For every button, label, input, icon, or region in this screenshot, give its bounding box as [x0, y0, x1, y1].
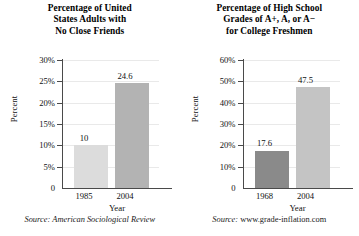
figure-two-bar-charts: Percentage of United States Adults with … — [0, 0, 359, 236]
source-label: Source: — [24, 215, 50, 224]
source-value: www.grade-inflation.com — [240, 215, 326, 224]
gridline — [244, 60, 340, 61]
chart-panel-no-close-friends: Percentage of United States Adults with … — [0, 0, 180, 236]
x-tick-label-2004: 2004 — [286, 192, 326, 201]
gridline — [63, 60, 159, 61]
y-tick-mark — [238, 167, 243, 168]
plot-region: 10 24.6 30% 25% 20% 15% 10% 5% 0 Percent… — [0, 0, 180, 236]
x-axis-line — [62, 188, 172, 189]
bar-value-2004: 47.5 — [286, 76, 326, 85]
y-axis-line — [243, 59, 244, 189]
bar-1985 — [74, 145, 108, 188]
y-tick-mark — [238, 145, 243, 146]
y-tick-label: 10% — [12, 141, 55, 150]
bar-value-1968: 17.6 — [245, 139, 285, 148]
x-axis-title: Year — [243, 203, 353, 213]
source-label: Source: — [212, 215, 238, 224]
bar-2004 — [296, 87, 330, 188]
x-tick-label-1985: 1985 — [64, 192, 104, 201]
y-tick-mark — [238, 81, 243, 82]
y-tick-label: 60% — [193, 56, 236, 65]
y-axis-line — [62, 59, 63, 189]
x-tick-label-1968: 1968 — [245, 192, 285, 201]
bar-1968 — [255, 151, 289, 189]
source-note: Source: www.grade-inflation.com — [180, 215, 359, 224]
source-note: Source: American Sociological Review — [0, 215, 180, 224]
y-tick-mark — [57, 81, 62, 82]
bar-value-1985: 10 — [64, 134, 104, 143]
chart-panel-grade-inflation: Percentage of High School Grades of A+, … — [180, 0, 359, 236]
y-tick-label: 10% — [193, 163, 236, 172]
x-axis-title: Year — [62, 203, 172, 213]
y-axis-title: Percent — [190, 79, 200, 139]
x-tick-label-2004: 2004 — [105, 192, 145, 201]
y-tick-mark — [57, 124, 62, 125]
y-tick-mark — [238, 103, 243, 104]
bar-2004 — [115, 83, 149, 188]
plot-region: 17.6 47.5 60% 50% 40% 30% 20% 10% 0 Perc… — [180, 0, 359, 236]
y-axis-title: Percent — [9, 79, 19, 139]
y-tick-mark — [57, 103, 62, 104]
y-tick-label: 5% — [12, 163, 55, 172]
y-tick-mark — [57, 145, 62, 146]
y-tick-mark — [57, 60, 62, 61]
y-tick-label: 30% — [12, 56, 55, 65]
source-value: American Sociological Review — [52, 215, 155, 224]
y-tick-mark — [238, 124, 243, 125]
x-axis-line — [243, 188, 353, 189]
y-tick-mark — [238, 60, 243, 61]
y-tick-label: 0 — [12, 184, 55, 193]
y-tick-mark — [57, 167, 62, 168]
bar-value-2004: 24.6 — [105, 72, 145, 81]
y-tick-label: 0 — [193, 184, 236, 193]
y-tick-label: 20% — [193, 141, 236, 150]
